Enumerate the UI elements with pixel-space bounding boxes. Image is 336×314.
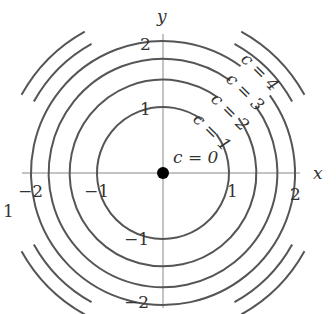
outer-arc-c5 [34,44,92,102]
outer-arc-c5 [34,244,92,302]
x-tick-label: 2 [290,184,301,204]
outer-arc-c5 [234,244,292,302]
outer-arc-c6 [22,251,85,314]
origin-point [157,167,169,179]
outer-arc-c6 [241,251,304,314]
level-label-c0: c = 0 [173,147,219,167]
y-tick-label: −1 [124,229,149,249]
outer-arc-c6 [22,32,85,95]
x-tick-label: 1 [227,181,238,201]
x-axis-label: x [313,163,323,183]
stray-label: 1 [3,201,14,221]
x-tick-label: −2 [18,181,43,201]
y-tick-label: −2 [124,292,149,312]
level-curve-plot: y x −2 −1 1 2 2 1 −1 −2 c = 0 c = 1 c = … [0,0,336,314]
y-tick-label: 2 [140,34,151,54]
x-tick-label: −1 [84,181,109,201]
y-axis-label: y [156,6,167,26]
y-tick-label: 1 [140,99,151,119]
